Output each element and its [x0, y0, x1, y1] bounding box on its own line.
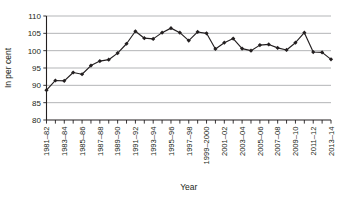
- x-tick-label: 1993–94: [149, 127, 158, 157]
- y-axis-title-text: In per cent: [3, 47, 13, 88]
- x-tick-label: 2011–12: [309, 127, 318, 156]
- data-point: 2006–07: 101.8: [267, 42, 271, 46]
- x-tick-label: 1987–88: [96, 127, 105, 157]
- series-line: [47, 28, 332, 90]
- x-tick-label: 1989–90: [113, 127, 122, 157]
- y-tick-label: 110: [28, 12, 41, 21]
- y-tick-label: 100: [28, 47, 42, 56]
- grid-group: 80859095100105110: [28, 12, 331, 125]
- x-tick-label: 1991–92: [131, 127, 140, 157]
- series-markers-group: 1981–82: 88.61982–83: 91.41983–84: 91.31…: [44, 26, 333, 92]
- x-tick-label: 2013–14: [327, 127, 336, 157]
- data-point: 1995–96: 106.5: [169, 26, 173, 30]
- y-tick-label: 90: [32, 81, 41, 90]
- x-tick-label: 1983–84: [60, 127, 69, 157]
- x-tick-label: 1999–2000: [202, 127, 211, 165]
- x-tick-label: 1981–82: [42, 127, 51, 157]
- x-axis-title-text: Year: [180, 182, 197, 192]
- x-tick-label: 1997–98: [185, 127, 194, 157]
- x-tick-label: 1985–86: [78, 127, 87, 157]
- x-tick-label: 1995–96: [167, 127, 176, 157]
- data-point: 1987–88: 97: [98, 59, 102, 63]
- y-tick-label: 95: [32, 64, 41, 73]
- line-chart: 808590951001051101981–821983–841985–8619…: [0, 0, 338, 198]
- x-tick-label: 2003–04: [238, 127, 247, 157]
- x-tick-label: 2007–08: [273, 127, 282, 157]
- x-tick-label: 2005–06: [256, 127, 265, 157]
- y-tick-label: 85: [32, 99, 41, 108]
- data-point: 2007–08: 100.8: [276, 46, 280, 50]
- x-tick-label: 2009–10: [291, 127, 300, 157]
- x-tick-label: 2001–02: [220, 127, 229, 157]
- chart-figure: 808590951001051101981–821983–841985–8619…: [0, 0, 338, 198]
- y-tick-label: 80: [32, 116, 41, 125]
- x-tick-labels-group: 1981–821983–841985–861987–881989–901991–…: [42, 127, 336, 165]
- y-tick-label: 105: [28, 29, 42, 38]
